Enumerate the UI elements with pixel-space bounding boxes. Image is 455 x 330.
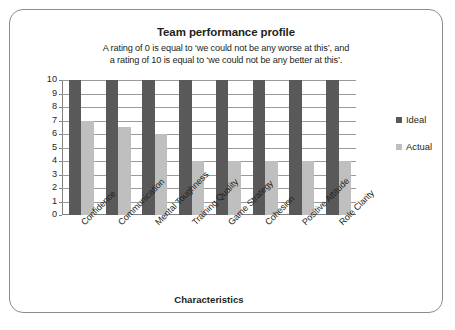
bar-actual[interactable] — [155, 134, 168, 215]
bar-group — [69, 80, 94, 215]
legend-label: Ideal — [406, 114, 426, 125]
legend-item[interactable]: Actual — [396, 141, 432, 152]
chart-subtitle-line-2: a rating of 10 is equal to ‘we could not… — [10, 55, 442, 65]
y-tick-label: 1 — [52, 197, 57, 206]
legend-label: Actual — [406, 141, 432, 152]
chart-subtitle-line-1: A rating of 0 is equal to ‘we could not … — [10, 43, 442, 53]
bar-actual[interactable] — [81, 121, 94, 216]
y-tick-label: 3 — [52, 170, 57, 179]
chart-legend: IdealActual — [396, 114, 432, 168]
y-tick-label: 2 — [52, 183, 57, 192]
bar-group — [289, 80, 314, 215]
legend-item[interactable]: Ideal — [396, 114, 432, 125]
y-tick-label: 0 — [52, 210, 57, 219]
y-tick-mark — [59, 215, 63, 216]
y-tick-label: 10 — [47, 75, 57, 84]
plot-area: 109876543210 ConfidenceCommunicationMent… — [62, 80, 356, 215]
figure-frame: Team performance profile A rating of 0 i… — [9, 9, 443, 313]
y-tick-label: 6 — [52, 129, 57, 138]
y-tick-label: 8 — [52, 102, 57, 111]
x-axis-title: Characteristics — [62, 294, 356, 305]
chart-title: Team performance profile — [10, 26, 442, 38]
y-tick-label: 9 — [52, 89, 57, 98]
bar-ideal[interactable] — [69, 80, 82, 215]
legend-swatch-icon — [396, 144, 402, 150]
y-tick-label: 5 — [52, 143, 57, 152]
bar-actual[interactable] — [118, 127, 131, 215]
y-tick-label: 7 — [52, 116, 57, 125]
y-tick-label: 4 — [52, 156, 57, 165]
legend-swatch-icon — [396, 117, 402, 123]
